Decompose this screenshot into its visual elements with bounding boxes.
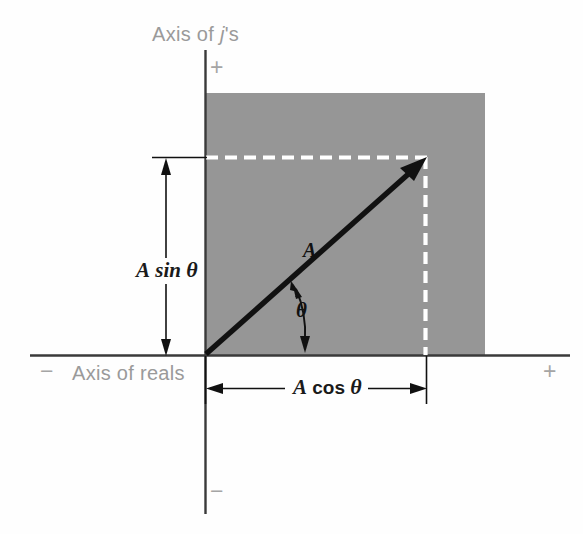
a-cos-theta-arrow-left xyxy=(206,383,223,394)
a-sin-theta-label: A sin θ xyxy=(136,259,198,281)
a-cos-theta-angle: θ xyxy=(350,374,361,399)
a-sin-theta-arrow-up xyxy=(161,158,171,175)
real-axis-minus-sign: − xyxy=(40,360,53,383)
a-sin-theta-dimension xyxy=(152,158,207,351)
real-axis-plus-sign: + xyxy=(543,360,556,383)
imaginary-axis-label: Axis of j's xyxy=(152,24,239,44)
diagram-canvas xyxy=(0,0,583,534)
vector-magnitude-label: A xyxy=(303,240,316,260)
a-sin-theta-arrow-down xyxy=(161,339,171,356)
imaginary-axis-minus-sign: − xyxy=(210,480,223,503)
a-cos-theta-label: A cos θ xyxy=(293,376,362,398)
a-cos-theta-arrow-right xyxy=(410,383,427,394)
a-cos-theta-magnitude: A xyxy=(293,375,307,399)
a-cos-theta-function: cos xyxy=(312,377,345,398)
phasor-diagram-figure: Axis of j's + − − Axis of reals + A sin … xyxy=(0,0,583,534)
theta-angle-label: θ xyxy=(296,300,307,321)
imaginary-axis-plus-sign: + xyxy=(210,56,223,79)
real-axis-label: Axis of reals xyxy=(72,363,185,383)
a-sin-theta-angle: θ xyxy=(186,257,197,282)
a-sin-theta-function: sin xyxy=(155,258,181,282)
a-sin-theta-magnitude: A xyxy=(136,258,150,282)
